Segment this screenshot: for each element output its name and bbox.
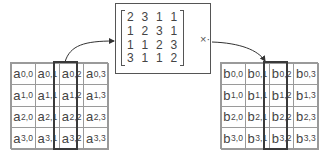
matrix-entry: 3 — [123, 52, 138, 66]
matrix-entry: 2 — [152, 39, 167, 53]
matrix-entry: 3 — [138, 11, 153, 25]
right-bracket — [180, 10, 184, 66]
grid-cell: a2,0 — [11, 106, 36, 129]
grid-cell: b1,3 — [293, 84, 318, 107]
mix-columns-matrix-box: 2 3 1 1 1 2 3 1 1 1 2 3 3 1 1 2 — [115, 3, 211, 74]
grid-cell: a3,2 — [59, 127, 84, 150]
matrix-entry: 2 — [167, 52, 182, 66]
grid-cell: b3,0 — [221, 127, 246, 150]
grid-cell: a0,1 — [35, 63, 60, 86]
grid-cell: b2,2 — [269, 106, 294, 129]
matrix-entry: 1 — [138, 52, 153, 66]
matrix-entry: 2 — [123, 11, 138, 25]
arrow-to-output — [212, 42, 265, 61]
grid-cell: a0,3 — [83, 63, 108, 86]
multiply-operator: ×· — [200, 33, 210, 45]
grid-cell: b2,0 — [221, 106, 246, 129]
grid-cell: b3,2 — [269, 127, 294, 150]
grid-cell: a1,3 — [83, 84, 108, 107]
grid-cell: a3,3 — [83, 127, 108, 150]
output-state-grid: b0,0 b0,1 b0,2 b0,3 b1,0 b1,1 b1,2 b1,3 … — [220, 62, 318, 149]
grid-cell: a3,0 — [11, 127, 36, 150]
grid-cell: a2,2 — [59, 106, 84, 129]
grid-cell: b0,1 — [245, 63, 270, 86]
grid-cell: a0,2 — [59, 63, 84, 86]
grid-cell: a1,1 — [35, 84, 60, 107]
grid-cell: b3,1 — [245, 127, 270, 150]
grid-cell: a3,1 — [35, 127, 60, 150]
matrix-entry: 1 — [152, 52, 167, 66]
grid-cell: a0,0 — [11, 63, 36, 86]
grid-cell: a2,3 — [83, 106, 108, 129]
matrix-entry: 1 — [152, 11, 167, 25]
grid-cell: b0,0 — [221, 63, 246, 86]
matrix-entry: 1 — [167, 25, 182, 39]
grid-cell: a2,1 — [35, 106, 60, 129]
matrix-entry: 3 — [167, 39, 182, 53]
grid-cell: b0,2 — [269, 63, 294, 86]
matrix-entry: 1 — [138, 39, 153, 53]
grid-cell: b3,3 — [293, 127, 318, 150]
grid-cell: b2,1 — [245, 106, 270, 129]
grid-cell: b1,2 — [269, 84, 294, 107]
grid-cell: b1,1 — [245, 84, 270, 107]
matrix-entry: 1 — [167, 11, 182, 25]
mix-matrix: 2 3 1 1 1 2 3 1 1 1 2 3 3 1 1 2 — [123, 11, 181, 66]
grid-cell: b0,3 — [293, 63, 318, 86]
grid-cell: b2,3 — [293, 106, 318, 129]
input-state-grid: a0,0 a0,1 a0,2 a0,3 a1,0 a1,1 a1,2 a1,3 … — [10, 62, 108, 149]
grid-cell: a1,2 — [59, 84, 84, 107]
arrow-to-matrix — [65, 41, 114, 62]
matrix-entry: 3 — [152, 25, 167, 39]
matrix-entry: 2 — [138, 25, 153, 39]
grid-cell: a1,0 — [11, 84, 36, 107]
matrix-entry: 1 — [123, 25, 138, 39]
matrix-entry: 1 — [123, 39, 138, 53]
grid-cell: b1,0 — [221, 84, 246, 107]
